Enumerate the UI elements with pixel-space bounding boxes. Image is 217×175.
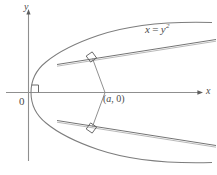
curve-equation-rhs-exponent: 2 (166, 22, 170, 30)
normal-segment-upper (93, 59, 106, 93)
curve-equation-label: x=y2 (145, 23, 170, 35)
x-axis-label: x (206, 86, 210, 96)
tangent-line-lower (57, 121, 216, 146)
right-angle-marker-vertex (32, 85, 39, 92)
origin-label: 0 (19, 96, 25, 107)
parabola-upper-branch (31, 22, 212, 92)
tangent-lines-group (57, 40, 216, 148)
x-axis-arrowhead (197, 90, 203, 94)
tangent-line-upper (57, 40, 216, 65)
curve-equation-lhs: x (145, 23, 150, 35)
tangent-line-upper-shadow (57, 41, 216, 66)
right-angle-marker-upper-close (86, 52, 96, 58)
figure-canvas (0, 0, 217, 175)
curve-equation-equals: = (152, 23, 159, 35)
point-a-label: (a, 0) (103, 94, 125, 104)
parabola-figure: x=y2 y x 0 (a, 0) (0, 0, 217, 175)
y-axis-label: y (24, 2, 28, 12)
point-paren-close: ) (121, 93, 124, 104)
